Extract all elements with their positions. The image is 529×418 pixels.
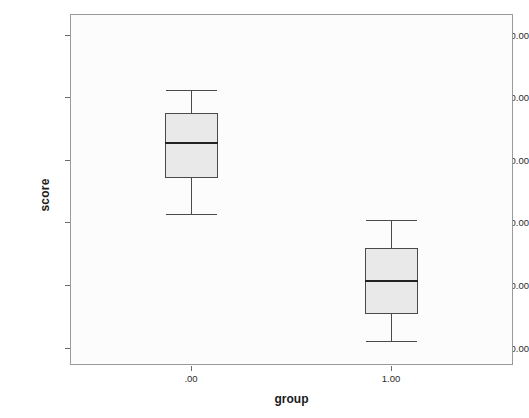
whisker-line-lower-group-1: [391, 314, 392, 341]
whisker-cap-lower-group-0: [166, 214, 217, 215]
whisker-cap-lower-group-1: [366, 341, 417, 342]
x-axis-title: group: [70, 392, 513, 406]
x-tick-mark-0: [191, 366, 192, 371]
whisker-line-upper-group-0: [191, 90, 192, 113]
x-tick-label-0: .00: [151, 373, 231, 384]
whisker-line-upper-group-1: [391, 220, 392, 248]
median-line-group-1: [365, 280, 418, 282]
whisker-line-lower-group-0: [191, 178, 192, 214]
x-tick-label-1: 1.00: [351, 373, 431, 384]
median-line-group-0: [165, 142, 218, 144]
y-axis-title-label: score: [38, 178, 52, 211]
plot-area: [70, 14, 513, 365]
box-group-0: [165, 113, 218, 178]
boxplot-chart: score 100.00 90.00 80.00 70.00 60.00 50.…: [0, 0, 529, 418]
x-tick-mark-1: [391, 366, 392, 371]
